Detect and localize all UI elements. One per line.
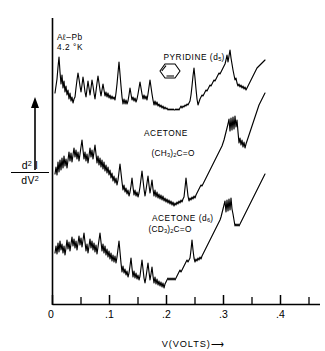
fraction-bar <box>11 172 49 173</box>
series-label-acetone-formula: (CH3)2C=O <box>141 140 195 168</box>
acetone-d6-formula-a: (CD <box>148 224 164 234</box>
series-label-acetone-line1: ACETONE <box>144 129 188 138</box>
x-tick-label-4: .4 <box>276 309 285 321</box>
x-tick-label-3: .3 <box>219 309 228 321</box>
x-tick-label-1: .1 <box>105 309 114 321</box>
y-axis-denominator: dV2 <box>5 174 55 186</box>
x-axis-major-ticks <box>53 295 281 305</box>
series-label-pyridine-close: ) <box>222 52 225 62</box>
x-tick-label-2: .2 <box>162 309 171 321</box>
x-tick-label-0: 0 <box>48 309 54 321</box>
x-axis-minor-ticks <box>81 297 309 305</box>
acetone-d6-close: ) <box>210 213 213 223</box>
x-axis-title: V(VOLTS)⟶ <box>148 329 224 351</box>
y-axis-denominator-text: dV2 <box>21 174 38 186</box>
x-axis-title-arrow: ⟶ <box>211 339 224 349</box>
series-label-pyridine-text: PYRIDINE (d <box>163 52 218 62</box>
y-axis-title: d2 I dV2 <box>5 159 55 186</box>
junction-label-line1: Aℓ–Pb <box>57 33 83 42</box>
junction-label-line2: 4.2 °K <box>57 43 83 52</box>
acetone-formula-a: (CH <box>151 148 167 158</box>
y-axis-numerator-text: d2 I <box>22 159 39 171</box>
y-axis-numerator: d2 I <box>5 159 55 171</box>
series-label-acetone-d6-formula: (CD3)2C=O <box>138 216 192 244</box>
acetone-d6-formula-b: C=O <box>174 224 192 234</box>
series-label-pyridine: PYRIDINE (d5) <box>152 44 225 72</box>
acetone-formula-b: C=O <box>177 148 195 158</box>
iets-spectrum-figure: Aℓ–Pb 4.2 °K PYRIDINE (d5) ACETONE (CH3)… <box>0 0 325 351</box>
x-axis-title-text: V(VOLTS) <box>162 339 211 349</box>
